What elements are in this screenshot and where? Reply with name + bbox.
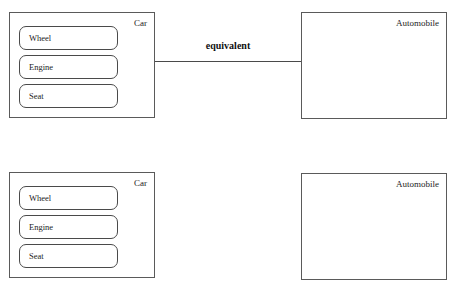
car-box-title-top: Car: [134, 18, 147, 29]
automobile-box-title-top: Automobile: [396, 18, 439, 29]
part-label: Wheel: [29, 193, 51, 203]
part-label: Seat: [29, 251, 44, 261]
car-box-top[interactable]: Car Wheel Engine Seat: [9, 12, 155, 118]
car-box-title-bottom: Car: [134, 178, 147, 189]
part-item-wheel-bottom[interactable]: Wheel: [19, 186, 118, 210]
part-item-seat-top[interactable]: Seat: [19, 84, 118, 108]
automobile-box-title-bottom: Automobile: [396, 179, 439, 190]
car-box-bottom[interactable]: Car Wheel Engine Seat: [9, 172, 155, 278]
part-label: Engine: [29, 222, 53, 232]
automobile-box-top[interactable]: Automobile: [301, 12, 447, 119]
part-item-seat-bottom[interactable]: Seat: [19, 244, 118, 268]
part-label: Engine: [29, 62, 53, 72]
equivalent-connector-label: equivalent: [186, 40, 270, 52]
part-label: Wheel: [29, 33, 51, 43]
equivalent-connector-line: [155, 61, 301, 62]
part-label: Seat: [29, 91, 44, 101]
automobile-box-bottom[interactable]: Automobile: [301, 173, 447, 280]
part-item-engine-top[interactable]: Engine: [19, 55, 118, 79]
car-parts-list-top: Wheel Engine Seat: [19, 26, 118, 113]
part-item-engine-bottom[interactable]: Engine: [19, 215, 118, 239]
diagram-canvas: Car Wheel Engine Seat equivalent Automob…: [0, 0, 457, 287]
car-parts-list-bottom: Wheel Engine Seat: [19, 186, 118, 273]
part-item-wheel-top[interactable]: Wheel: [19, 26, 118, 50]
